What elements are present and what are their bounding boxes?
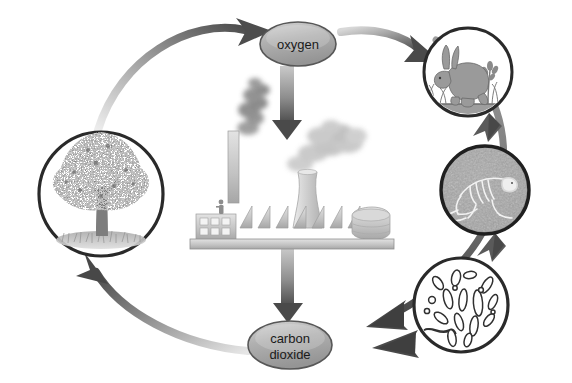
worker-figure xyxy=(216,200,224,214)
arrow-oxygen-to-factory xyxy=(272,66,302,140)
factory-base xyxy=(190,239,394,249)
node-oxygen: oxygen xyxy=(260,22,336,66)
arrow-factory-to-carbon-dioxide xyxy=(273,248,303,323)
tree-circle xyxy=(39,132,163,256)
carbon-oxygen-cycle-diagram: oxygen carbon dioxide xyxy=(0,0,572,383)
storage-tank xyxy=(352,207,390,240)
bacteria-circle xyxy=(414,258,508,352)
oxygen-label: oxygen xyxy=(277,37,319,52)
node-carbon-dioxide: carbon dioxide xyxy=(248,321,332,369)
arrow-carbon-dioxide-to-tree xyxy=(76,252,248,351)
chimney-smoke xyxy=(237,78,270,135)
rabbit-circle xyxy=(424,28,514,118)
cycle-svg: oxygen carbon dioxide xyxy=(0,0,572,383)
carbon-dioxide-label-line1: carbon xyxy=(270,331,310,346)
carcass-circle xyxy=(436,146,529,234)
carbon-dioxide-label-line2: dioxide xyxy=(269,347,310,362)
arrow-bacteria-to-carbon-dioxide xyxy=(372,330,419,358)
cooling-tower-smoke xyxy=(287,120,367,172)
smokestack xyxy=(228,131,239,203)
